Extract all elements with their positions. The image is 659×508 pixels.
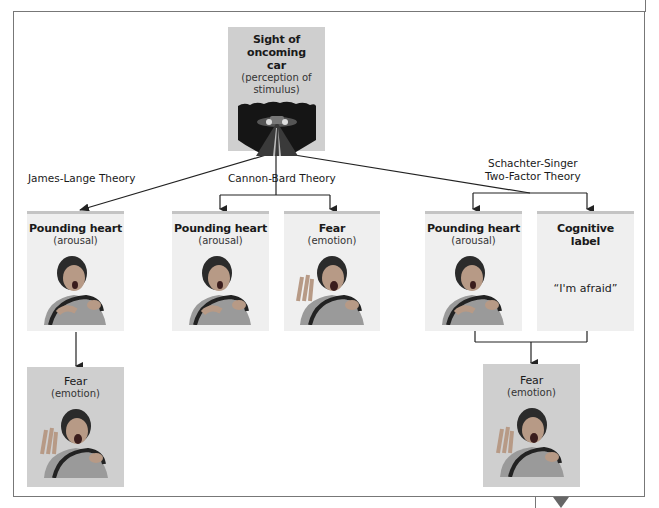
cannon-bard-theory-label: Cannon-Bard Theory <box>228 172 336 185</box>
cannon-bard-fear-box: Fear (emotion) <box>284 211 380 331</box>
cognitive-label-quote: “I'm afraid” <box>537 282 634 295</box>
box-title: Pounding heart <box>425 222 522 235</box>
box-title: Fear <box>284 222 380 235</box>
james-lange-theory-label: James-Lange Theory <box>28 172 135 185</box>
person-hand-on-chest-icon <box>36 251 116 325</box>
schachter-singer-label-line2: Two-Factor Theory <box>485 170 581 182</box>
box-subtitle: (emotion) <box>483 387 580 399</box>
stimulus-sub-line1: (perception of <box>241 72 311 83</box>
schachter-singer-cognitive-label-box: Cognitive label “I'm afraid” <box>537 211 634 331</box>
schachter-singer-arousal-box: Pounding heart (arousal) <box>425 211 522 331</box>
person-screaming-icon <box>492 403 572 477</box>
schachter-singer-label-line1: Schachter-Singer <box>488 157 578 169</box>
box-title-line1: Cognitive <box>557 222 614 235</box>
box-subtitle: (emotion) <box>284 235 380 247</box>
person-hand-on-chest-icon <box>181 251 261 325</box>
box-title: Pounding heart <box>172 222 269 235</box>
box-title-line2: label <box>571 235 600 248</box>
road-car-image-icon <box>236 100 318 156</box>
box-title: Pounding heart <box>27 222 124 235</box>
stimulus-box: Sight of oncoming car (perception of sti… <box>228 27 325 151</box>
james-lange-fear-box: Fear (emotion) <box>27 367 124 487</box>
box-title: Fear <box>483 374 580 387</box>
stimulus-sub-line2: stimulus) <box>253 84 299 95</box>
person-screaming-icon <box>292 251 372 325</box>
box-subtitle: (arousal) <box>425 235 522 247</box>
box-subtitle: (arousal) <box>27 235 124 247</box>
stimulus-title-line2: car <box>267 59 286 72</box>
box-title: Fear <box>27 375 124 388</box>
person-hand-on-chest-icon <box>434 251 514 325</box>
box-subtitle: (arousal) <box>172 235 269 247</box>
stimulus-title-line1: Sight of oncoming <box>247 33 306 59</box>
person-screaming-icon <box>36 404 116 478</box>
schachter-singer-fear-box: Fear (emotion) <box>483 364 580 487</box>
cannon-bard-arousal-box: Pounding heart (arousal) <box>172 211 269 331</box>
schachter-singer-theory-label: Schachter-Singer Two-Factor Theory <box>485 157 581 183</box>
james-lange-arousal-box: Pounding heart (arousal) <box>27 211 124 331</box>
box-subtitle: (emotion) <box>27 388 124 400</box>
